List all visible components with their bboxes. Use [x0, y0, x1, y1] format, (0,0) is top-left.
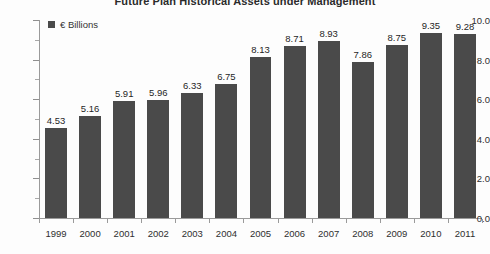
bar-item[interactable]: 5.96	[147, 20, 169, 218]
bar-rect[interactable]	[386, 45, 408, 218]
bar-rect[interactable]	[454, 34, 476, 218]
bar-rect[interactable]	[147, 100, 169, 218]
bar-value-label: 8.13	[251, 44, 270, 55]
x-axis-tick-label: 2006	[284, 228, 305, 239]
bar-item[interactable]: 6.33	[181, 20, 203, 218]
bar-value-label: 6.75	[217, 71, 236, 82]
bar-item[interactable]: 5.91	[113, 20, 135, 218]
bar-value-label: 4.53	[47, 115, 66, 126]
bar-rect[interactable]	[215, 84, 237, 218]
x-axis-tick-mark	[312, 219, 313, 223]
bar-rect[interactable]	[79, 116, 101, 218]
x-axis-tick-label: 2004	[216, 228, 237, 239]
bar-value-label: 9.28	[456, 21, 475, 32]
bar-rect[interactable]	[420, 33, 442, 218]
x-axis-tick-mark	[209, 219, 210, 223]
bar-rect[interactable]	[284, 46, 306, 218]
x-axis-tick-label: 2003	[182, 228, 203, 239]
bar-value-label: 6.33	[183, 80, 202, 91]
bar-rect[interactable]	[250, 57, 272, 218]
x-axis-tick-label: 2007	[318, 228, 339, 239]
plot-area: 4.535.165.915.966.336.758.138.718.937.86…	[39, 20, 482, 218]
bar-value-label: 8.71	[285, 33, 304, 44]
bar-item[interactable]: 8.93	[318, 20, 340, 218]
bar-rect[interactable]	[352, 62, 374, 218]
x-axis-tick-mark	[448, 219, 449, 223]
bar-item[interactable]: 5.16	[79, 20, 101, 218]
bar-item[interactable]: 7.86	[352, 20, 374, 218]
bar-item[interactable]: 8.71	[284, 20, 306, 218]
bar-value-label: 5.96	[149, 87, 168, 98]
x-axis-tick-mark	[175, 219, 176, 223]
x-axis-line	[39, 218, 482, 219]
bar-value-label: 7.86	[353, 49, 372, 60]
x-axis-tick-mark	[380, 219, 381, 223]
x-axis-tick-mark	[73, 219, 74, 223]
bar-value-label: 8.75	[388, 32, 407, 43]
x-axis-tick-mark	[107, 219, 108, 223]
bar-chart-figure: Future Plan Historical Assets under Mana…	[0, 0, 490, 254]
bar-value-label: 8.93	[319, 28, 338, 39]
bar-value-label: 5.91	[115, 88, 134, 99]
bar-item[interactable]: 8.75	[386, 20, 408, 218]
x-axis-tick-label: 2010	[420, 228, 441, 239]
bar-item[interactable]: 9.35	[420, 20, 442, 218]
x-axis-tick-label: 2001	[114, 228, 135, 239]
x-axis-tick-mark	[482, 219, 483, 223]
x-axis-tick-mark	[39, 219, 40, 223]
bar-value-label: 9.35	[422, 20, 441, 31]
bar-rect[interactable]	[45, 128, 67, 218]
bar-item[interactable]: 8.13	[250, 20, 272, 218]
bar-item[interactable]: 4.53	[45, 20, 67, 218]
x-axis-tick-mark	[278, 219, 279, 223]
x-axis-tick-mark	[414, 219, 415, 223]
bar-rect[interactable]	[113, 101, 135, 218]
x-axis-tick-label: 2000	[80, 228, 101, 239]
chart-title: Future Plan Historical Assets under Mana…	[0, 0, 490, 7]
x-axis-tick-label: 2011	[455, 228, 475, 239]
bar-rect[interactable]	[181, 93, 203, 218]
x-axis-tick-label: 2005	[250, 228, 271, 239]
bar-item[interactable]: 9.28	[454, 20, 476, 218]
x-axis-tick-label: 2009	[386, 228, 407, 239]
x-axis-tick-mark	[243, 219, 244, 223]
x-axis-tick-label: 1999	[45, 228, 66, 239]
x-axis-tick-mark	[346, 219, 347, 223]
x-axis-tick-label: 2008	[352, 228, 373, 239]
x-axis-tick-label: 2002	[148, 228, 169, 239]
bar-rect[interactable]	[318, 41, 340, 218]
bar-value-label: 5.16	[81, 103, 100, 114]
x-axis-tick-mark	[141, 219, 142, 223]
bar-item[interactable]: 6.75	[215, 20, 237, 218]
